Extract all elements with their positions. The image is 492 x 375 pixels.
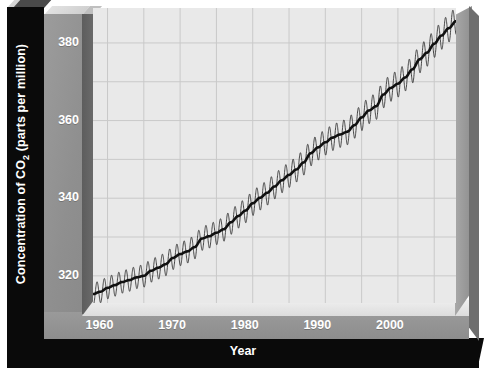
x-tick-label: 2000	[367, 318, 413, 332]
y-axis-title-prefix: Concentration of CO	[14, 160, 28, 284]
gridlines	[93, 8, 456, 303]
x-tick-label: 1970	[149, 318, 195, 332]
frame-y-tick-wall	[44, 14, 82, 338]
series-monthly-co2	[93, 10, 456, 303]
y-tick-label: 340	[45, 190, 79, 204]
x-tick-label: 1960	[77, 318, 123, 332]
x-axis-title: Year	[7, 344, 479, 358]
chart-figure: 320340360380 19601970198019902000 Concen…	[0, 0, 492, 375]
y-tick-label: 380	[45, 35, 79, 49]
y-axis-title: Concentration of CO2 (parts per million)	[14, 12, 31, 316]
y-axis-title-suffix: (parts per million)	[14, 44, 28, 155]
y-axis-title-subscript: 2	[21, 155, 31, 160]
x-tick-label: 1980	[222, 318, 268, 332]
cropped-title-remnant	[250, 0, 492, 7]
x-tick-label: 1990	[294, 318, 340, 332]
series-smoothed-trend	[93, 21, 456, 294]
plot-panel	[93, 8, 456, 303]
y-tick-label: 360	[45, 113, 79, 127]
frame-plot-right-edge	[469, 6, 479, 341]
y-tick-label: 320	[45, 268, 79, 282]
plot-svg	[93, 8, 456, 303]
